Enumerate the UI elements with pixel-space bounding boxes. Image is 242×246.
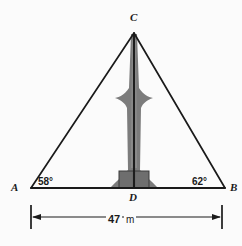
vertex-label-d: D (129, 192, 137, 203)
geometry-figure: C A B D 58° 62° 47 m (0, 0, 242, 246)
dimension-value-label: 47 (106, 214, 122, 225)
dimension-arrowhead-right (212, 214, 221, 220)
dimension-unit-label: m (124, 215, 136, 225)
angle-label-a: 58° (38, 177, 53, 187)
vertex-label-a: A (11, 182, 18, 193)
figure-canvas (0, 0, 242, 246)
triangle-side-cb (134, 33, 225, 188)
vertex-label-b: B (230, 182, 237, 193)
dimension-arrowhead-left (32, 214, 41, 220)
vertex-label-c: C (130, 12, 137, 23)
triangle-side-ac (31, 33, 134, 188)
angle-label-b: 62° (192, 177, 207, 187)
